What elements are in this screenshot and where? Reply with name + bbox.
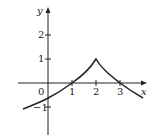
function-graph: y x 0 1 2 3 2 1 −1 xyxy=(0,0,155,137)
x-axis-arrow-icon xyxy=(141,81,147,86)
y-tick-label-2: 2 xyxy=(38,29,44,40)
y-axis-arrow-icon xyxy=(46,7,51,13)
y-tick-label-1: 1 xyxy=(38,53,44,64)
origin-label: 0 xyxy=(38,86,44,97)
x-tick-label-3: 3 xyxy=(117,86,123,97)
y-axis-label: y xyxy=(36,5,43,16)
function-curve xyxy=(23,59,143,109)
x-axis-label: x xyxy=(141,86,147,97)
x-tick-label-2: 2 xyxy=(93,86,99,97)
x-tick-label-1: 1 xyxy=(69,86,75,97)
